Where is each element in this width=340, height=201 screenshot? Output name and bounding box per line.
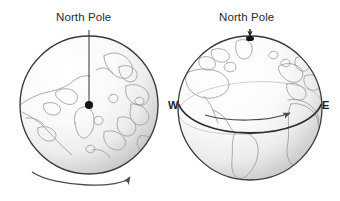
north-pole-marker-polar [85,101,93,109]
globe-equatorial-view [176,29,323,180]
globe-sphere-equatorial [178,36,322,180]
north-pole-label-polar: North Pole [56,11,111,23]
earth-rotation-figure: North Pole North Pole W E [0,0,340,201]
north-pole-label-equatorial: North Pole [219,11,274,23]
east-label: E [322,99,329,111]
north-pole-marker-equatorial [246,36,254,41]
west-label: W [168,99,178,111]
globe-polar-view [20,30,158,185]
